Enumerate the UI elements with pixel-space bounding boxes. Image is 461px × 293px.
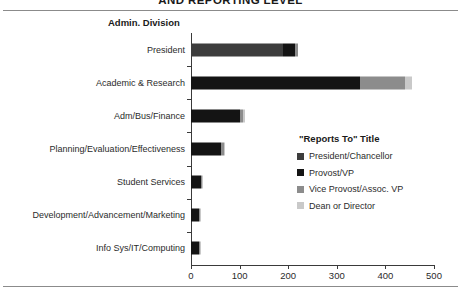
legend-item[interactable]: Provost/VP (297, 168, 403, 178)
y-axis-tick (187, 66, 191, 67)
stacked-bar[interactable] (191, 209, 200, 222)
y-axis-tick (187, 232, 191, 233)
chart-title-clipped: AND REPORTING LEVEL (0, 0, 461, 9)
y-axis-tick-label: Development/Advancement/Marketing (32, 210, 185, 220)
legend-item-label: Vice Provost/Assoc. VP (309, 184, 403, 194)
bar-segment[interactable] (224, 142, 225, 155)
x-axis-tick-label: 200 (280, 270, 296, 281)
y-axis-title: Admin. Division (108, 17, 180, 28)
chart-category-row: Adm/Bus/Finance (191, 99, 434, 132)
x-axis-tick (434, 265, 435, 269)
bar-segment[interactable] (295, 43, 298, 56)
y-axis-tick (187, 166, 191, 167)
legend-item[interactable]: President/Chancellor (297, 151, 403, 161)
bar-segment[interactable] (191, 209, 199, 222)
stacked-bar[interactable] (191, 109, 245, 122)
y-axis-tick-label: Planning/Evaluation/Effectiveness (50, 144, 185, 154)
legend-item-label: President/Chancellor (309, 151, 393, 161)
chart-container: AND REPORTING LEVEL Admin. Division Pres… (0, 0, 461, 293)
y-axis-tick (187, 199, 191, 200)
bar-segment[interactable] (191, 109, 240, 122)
x-axis-tick-label: 0 (188, 270, 193, 281)
legend-item-list: President/ChancellorProvost/VPVice Provo… (297, 151, 403, 211)
legend-swatch-icon (297, 186, 304, 193)
legend-swatch-icon (297, 202, 304, 209)
chart-title: AND REPORTING LEVEL (0, 0, 461, 9)
x-axis-line (191, 265, 435, 266)
x-axis-tick-label: 100 (232, 270, 248, 281)
bar-segment[interactable] (283, 43, 295, 56)
bar-segment[interactable] (191, 176, 201, 189)
bar-segment[interactable] (191, 76, 360, 89)
bar-segment[interactable] (191, 43, 283, 56)
y-axis-tick (187, 99, 191, 100)
x-axis-tick (385, 265, 386, 269)
y-axis-tick-label: President (147, 45, 185, 55)
y-axis-tick-label: Student Services (117, 177, 185, 187)
footer-divider (3, 286, 458, 287)
chart-legend: "Reports To" Title President/ChancellorP… (297, 133, 403, 217)
x-axis-tick-label: 500 (426, 270, 442, 281)
stacked-bar[interactable] (191, 76, 412, 89)
x-axis-tick (240, 265, 241, 269)
bar-segment[interactable] (191, 142, 221, 155)
x-axis-tick (288, 265, 289, 269)
y-axis-tick (187, 132, 191, 133)
header-divider (3, 10, 458, 11)
chart-category-row: Academic & Research (191, 66, 434, 99)
legend-item[interactable]: Vice Provost/Assoc. VP (297, 184, 403, 194)
x-axis-tick-label: 400 (377, 270, 393, 281)
bar-segment[interactable] (360, 76, 405, 89)
chart-category-row: President (191, 33, 434, 66)
y-axis-tick-label: Info Sys/IT/Computing (96, 243, 185, 253)
x-axis-tick (337, 265, 338, 269)
x-axis-tick-label: 300 (329, 270, 345, 281)
chart-category-row: Info Sys/IT/Computing (191, 232, 434, 265)
y-axis-tick-label: Adm/Bus/Finance (114, 111, 185, 121)
stacked-bar[interactable] (191, 43, 298, 56)
stacked-bar[interactable] (191, 142, 225, 155)
stacked-bar[interactable] (191, 176, 203, 189)
legend-swatch-icon (297, 169, 304, 176)
bar-segment[interactable] (191, 242, 199, 255)
legend-swatch-icon (297, 153, 304, 160)
y-axis-tick-label: Academic & Research (96, 78, 185, 88)
legend-item-label: Provost/VP (309, 168, 354, 178)
legend-item[interactable]: Dean or Director (297, 201, 403, 211)
stacked-bar[interactable] (191, 242, 200, 255)
legend-title: "Reports To" Title (299, 133, 403, 144)
bar-segment[interactable] (405, 76, 412, 89)
bar-segment[interactable] (243, 109, 244, 122)
x-axis-tick (191, 265, 192, 269)
legend-item-label: Dean or Director (309, 201, 375, 211)
